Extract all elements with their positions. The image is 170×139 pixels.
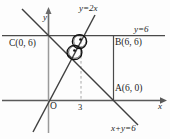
label-line-y-equals-6: y=6 xyxy=(134,25,149,34)
y-axis-label: y xyxy=(43,13,47,22)
label-point-b: B(6, 6) xyxy=(115,38,142,48)
intersection-dot-lower xyxy=(73,49,76,52)
intersection-dot-upper xyxy=(79,38,82,41)
origin-label: O xyxy=(50,102,57,112)
label-point-a: A(6, 0) xyxy=(115,84,142,94)
coordinate-diagram-svg xyxy=(0,0,170,139)
x-tick-label-3: 3 xyxy=(78,103,82,112)
figure-canvas: y x O 3 y=2x y=6 x+y=6 C(0, 6) B(6, 6) A… xyxy=(0,0,170,139)
label-point-c: C(0, 6) xyxy=(9,39,36,49)
x-axis-label: x xyxy=(158,102,162,111)
label-line-x-plus-y-equals-6: x+y=6 xyxy=(111,124,136,133)
label-line-y-equals-2x: y=2x xyxy=(79,4,98,13)
